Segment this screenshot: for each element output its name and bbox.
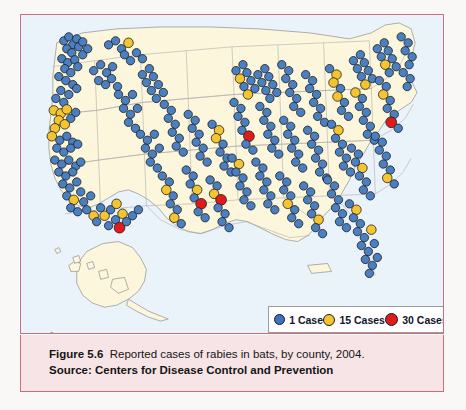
case-marker-1-case xyxy=(268,144,276,152)
case-marker-1-case xyxy=(295,220,303,228)
case-marker-15-cases xyxy=(69,195,79,205)
case-marker-15-cases xyxy=(334,126,344,136)
figure-container: © Infobase Publishing 1 Case 15 Cases 30… xyxy=(0,0,466,410)
case-marker-1-case xyxy=(330,182,338,190)
case-marker-1-case xyxy=(124,118,132,126)
case-marker-1-case xyxy=(288,144,296,152)
case-marker-1-case xyxy=(370,239,378,247)
case-marker-1-case xyxy=(241,118,249,126)
case-marker-1-case xyxy=(275,150,283,158)
case-marker-1-case xyxy=(383,104,391,112)
case-marker-1-case xyxy=(65,33,73,41)
case-marker-1-case xyxy=(247,76,255,84)
case-marker-1-case xyxy=(196,152,204,160)
case-marker-1-case xyxy=(230,98,238,106)
case-marker-1-case xyxy=(142,78,150,86)
case-marker-1-case xyxy=(338,210,346,218)
case-marker-1-case xyxy=(298,164,306,172)
case-marker-1-case xyxy=(136,130,144,138)
case-marker-1-case xyxy=(359,116,367,124)
case-marker-1-case xyxy=(254,70,262,78)
case-marker-1-case xyxy=(303,196,311,204)
case-marker-1-case xyxy=(192,138,200,146)
case-marker-1-case xyxy=(323,176,331,184)
case-marker-1-case xyxy=(361,255,369,263)
case-marker-1-case xyxy=(318,160,326,168)
case-marker-1-case xyxy=(189,172,197,180)
case-marker-1-case xyxy=(397,33,405,41)
case-marker-1-case xyxy=(154,80,162,88)
case-marker-1-case xyxy=(283,178,291,186)
case-marker-15-cases xyxy=(358,163,368,173)
legend-item-30-cases: 30 Cases xyxy=(385,313,444,326)
case-marker-1-case xyxy=(147,86,155,94)
case-marker-1-case xyxy=(342,154,350,162)
case-marker-1-case xyxy=(194,208,202,216)
case-marker-1-case xyxy=(143,136,151,144)
case-marker-1-case xyxy=(288,214,296,222)
case-marker-1-case xyxy=(80,198,88,206)
case-marker-1-case xyxy=(167,106,175,114)
case-marker-1-case xyxy=(179,148,187,156)
case-marker-1-case xyxy=(73,84,81,92)
case-marker-1-case xyxy=(73,178,81,186)
case-marker-1-case xyxy=(357,241,365,249)
case-marker-1-case xyxy=(318,229,326,237)
case-marker-1-case xyxy=(239,61,247,69)
case-marker-15-cases xyxy=(314,215,324,225)
legend-swatch-yellow-circle-icon xyxy=(323,314,335,326)
case-marker-1-case xyxy=(236,182,244,190)
case-marker-1-case xyxy=(214,204,222,212)
case-marker-1-case xyxy=(261,64,269,72)
case-marker-1-case xyxy=(232,168,240,176)
case-marker-1-case xyxy=(164,114,172,122)
case-marker-1-case xyxy=(404,39,412,47)
case-marker-1-case xyxy=(256,102,264,110)
case-marker-1-case xyxy=(362,108,370,116)
case-marker-1-case xyxy=(219,140,227,148)
legend-label-15-cases: 15 Cases xyxy=(339,314,385,326)
case-marker-1-case xyxy=(134,206,142,214)
case-marker-1-case xyxy=(390,180,398,188)
case-marker-1-case xyxy=(366,192,374,200)
case-marker-1-case xyxy=(310,132,318,140)
case-marker-1-case xyxy=(84,45,92,53)
case-marker-1-case xyxy=(52,94,60,102)
case-marker-1-case xyxy=(114,90,122,98)
case-marker-1-case xyxy=(340,98,348,106)
case-marker-1-case xyxy=(218,218,226,226)
case-marker-1-case xyxy=(150,130,158,138)
case-marker-1-case xyxy=(401,47,409,55)
case-marker-1-case xyxy=(96,61,104,69)
case-marker-1-case xyxy=(67,68,75,76)
case-marker-1-case xyxy=(356,51,364,59)
case-marker-1-case xyxy=(282,74,290,82)
case-marker-1-case xyxy=(295,150,303,158)
case-marker-1-case xyxy=(339,162,347,170)
case-marker-1-case xyxy=(385,68,393,76)
case-marker-1-case xyxy=(305,84,313,92)
caption-line-source: Source: Centers for Disease Control and … xyxy=(49,362,443,378)
case-marker-1-case xyxy=(234,112,242,120)
case-marker-1-case xyxy=(344,112,352,120)
case-marker-1-case xyxy=(172,142,180,150)
case-marker-1-case xyxy=(138,70,146,78)
case-marker-1-case xyxy=(354,150,362,158)
case-marker-1-case xyxy=(267,122,275,130)
case-marker-1-case xyxy=(74,140,82,148)
case-marker-1-case xyxy=(292,158,300,166)
case-marker-1-case xyxy=(199,144,207,152)
case-marker-1-case xyxy=(355,102,363,110)
case-marker-1-case xyxy=(347,144,355,152)
case-marker-1-case xyxy=(175,134,183,142)
case-marker-1-case xyxy=(360,233,368,241)
case-marker-1-case xyxy=(373,45,381,53)
case-marker-1-case xyxy=(247,202,255,210)
case-marker-1-case xyxy=(239,174,247,182)
case-marker-1-case xyxy=(371,132,379,140)
case-marker-1-case xyxy=(153,164,161,172)
case-marker-1-case xyxy=(359,186,367,194)
case-marker-1-case xyxy=(335,218,343,226)
case-marker-1-case xyxy=(309,98,317,106)
legend-label-1-case: 1 Case xyxy=(289,314,323,326)
